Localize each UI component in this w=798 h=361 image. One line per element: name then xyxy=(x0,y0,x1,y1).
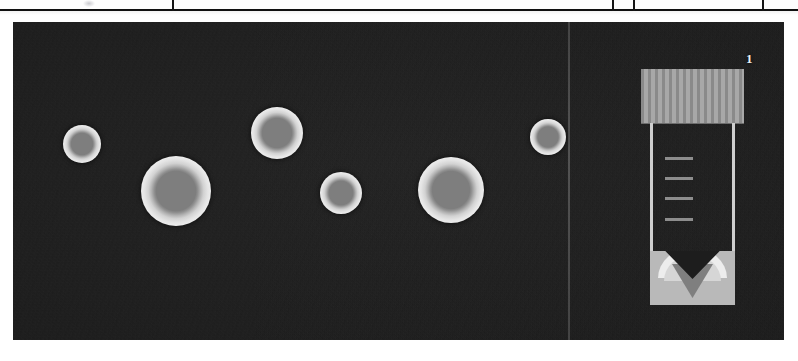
screenshot-root: 1 xyxy=(0,0,798,361)
sample-tube-graphic[interactable] xyxy=(641,69,744,305)
tube-graduation-mark xyxy=(665,157,693,160)
header-divider-4 xyxy=(762,0,764,11)
colony-spot[interactable] xyxy=(530,119,566,155)
page-left-margin xyxy=(0,15,13,361)
colony-spot[interactable] xyxy=(141,156,211,226)
tube-graduation-mark xyxy=(665,197,693,200)
header-divider-1 xyxy=(172,0,174,11)
header-divider-2 xyxy=(612,0,614,11)
faint-icon xyxy=(83,0,95,7)
header-divider-3 xyxy=(633,0,635,11)
panel-index-label: 1 xyxy=(746,52,753,65)
colony-spot[interactable] xyxy=(251,107,303,159)
tube-cap-icon xyxy=(641,69,744,124)
page-bottom-area xyxy=(0,340,798,361)
header-shadow xyxy=(0,11,798,15)
colony-spot[interactable] xyxy=(418,157,484,223)
vertical-scan-line xyxy=(568,22,570,340)
tube-bottom xyxy=(650,251,735,305)
table-header-strip[interactable] xyxy=(0,0,798,11)
colony-spot[interactable] xyxy=(63,125,101,163)
microscopy-image-panel[interactable]: 1 xyxy=(13,22,784,340)
tube-graduation-mark xyxy=(665,218,693,221)
page-right-margin xyxy=(784,15,798,361)
tube-graduation-mark xyxy=(665,177,693,180)
colony-spot[interactable] xyxy=(320,172,362,214)
